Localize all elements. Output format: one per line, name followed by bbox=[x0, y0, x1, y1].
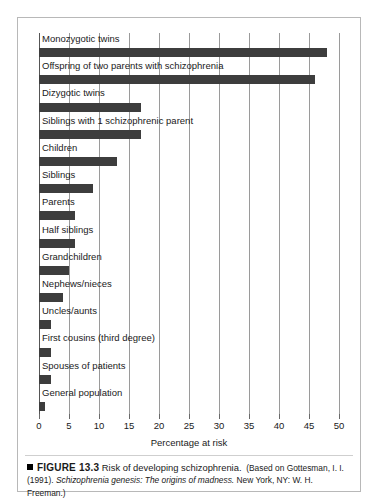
bar bbox=[39, 266, 69, 275]
bar-category-label: Uncles/aunts bbox=[42, 305, 97, 317]
bar bbox=[39, 103, 141, 112]
bar-group: Spouses of patients bbox=[39, 360, 339, 387]
source-lead: (Based on bbox=[246, 463, 284, 473]
bar-category-label: First cousins (third degree) bbox=[42, 332, 155, 344]
caption-divider bbox=[25, 455, 353, 456]
x-tick-mark-40 bbox=[279, 414, 280, 419]
bar bbox=[39, 348, 51, 357]
x-tick-mark-50 bbox=[339, 414, 340, 419]
bar-category-label: Children bbox=[42, 142, 77, 154]
figure-title-text: Risk of developing schizophrenia. bbox=[102, 462, 242, 473]
bar bbox=[39, 75, 315, 84]
x-tick-mark-5 bbox=[69, 414, 70, 419]
bar bbox=[39, 239, 75, 248]
source-line2: New bbox=[237, 475, 254, 485]
x-tick-mark-10 bbox=[99, 414, 100, 419]
bar-category-label: General population bbox=[42, 387, 122, 399]
bar bbox=[39, 184, 93, 193]
bar bbox=[39, 320, 51, 329]
bar bbox=[39, 211, 75, 220]
bar-group: Grandchildren bbox=[39, 251, 339, 278]
bar-category-label: Monozygotic twins bbox=[42, 33, 120, 45]
bar-category-label: Parents bbox=[42, 196, 75, 208]
x-tick-mark-25 bbox=[189, 414, 190, 419]
bar-group: Half siblings bbox=[39, 224, 339, 251]
x-tick-mark-35 bbox=[249, 414, 250, 419]
bar-group: Uncles/aunts bbox=[39, 305, 339, 332]
figure-caption: FIGURE 13.3 Risk of developing schizophr… bbox=[27, 462, 351, 499]
bar bbox=[39, 375, 51, 384]
source-italic-title: Schizophrenia genesis: The origins of ma… bbox=[56, 475, 234, 485]
bar-group: Offspring of two parents with schizophre… bbox=[39, 60, 339, 87]
bar-group: Siblings with 1 schizophrenic parent bbox=[39, 115, 339, 142]
bar-group: Parents bbox=[39, 196, 339, 223]
bar-category-label: Half siblings bbox=[42, 224, 93, 236]
x-tick-mark-30 bbox=[219, 414, 220, 419]
bar-category-label: Siblings with 1 schizophrenic parent bbox=[42, 115, 193, 127]
bar bbox=[39, 157, 117, 166]
bar-group: General population bbox=[39, 387, 339, 414]
bar-category-label: Grandchildren bbox=[42, 251, 102, 263]
x-tick-label-50: 50 bbox=[334, 420, 345, 432]
bar bbox=[39, 130, 141, 139]
x-axis: 05101520253035404550 bbox=[39, 414, 339, 436]
x-tick-label-5: 5 bbox=[66, 420, 71, 432]
x-tick-label-40: 40 bbox=[274, 420, 285, 432]
x-tick-mark-20 bbox=[159, 414, 160, 419]
chart-plot-area: Monozygotic twinsOffspring of two parent… bbox=[39, 33, 339, 414]
bar bbox=[39, 48, 327, 57]
x-tick-label-30: 30 bbox=[214, 420, 225, 432]
x-axis-title: Percentage at risk bbox=[18, 437, 360, 448]
x-tick-mark-45 bbox=[309, 414, 310, 419]
figure-number: FIGURE 13.3 bbox=[37, 462, 99, 473]
bar-category-label: Siblings bbox=[42, 169, 75, 181]
bar-group: Monozygotic twins bbox=[39, 33, 339, 60]
bar-category-label: Nephews/nieces bbox=[42, 278, 112, 290]
bar-category-label: Offspring of two parents with schizophre… bbox=[42, 60, 223, 72]
x-tick-label-35: 35 bbox=[244, 420, 255, 432]
x-tick-label-25: 25 bbox=[184, 420, 195, 432]
x-tick-mark-0 bbox=[39, 414, 40, 419]
bar-group: Siblings bbox=[39, 169, 339, 196]
x-tick-label-10: 10 bbox=[94, 420, 105, 432]
bar-category-label: Spouses of patients bbox=[42, 360, 125, 372]
bar bbox=[39, 402, 45, 411]
bar-group: Children bbox=[39, 142, 339, 169]
bar-group: Dizygotic twins bbox=[39, 87, 339, 114]
x-tick-label-15: 15 bbox=[124, 420, 135, 432]
x-tick-label-45: 45 bbox=[304, 420, 315, 432]
bar-series: Monozygotic twinsOffspring of two parent… bbox=[39, 33, 339, 414]
bar-category-label: Dizygotic twins bbox=[42, 87, 105, 99]
gridline-50 bbox=[339, 33, 340, 414]
caption-marker-icon bbox=[27, 464, 33, 470]
figure-frame: Monozygotic twinsOffspring of two parent… bbox=[17, 17, 361, 492]
bar-group: Nephews/nieces bbox=[39, 278, 339, 305]
bar-group: First cousins (third degree) bbox=[39, 332, 339, 359]
bar bbox=[39, 293, 63, 302]
x-tick-label-20: 20 bbox=[154, 420, 165, 432]
x-tick-mark-15 bbox=[129, 414, 130, 419]
x-tick-label-0: 0 bbox=[36, 420, 41, 432]
